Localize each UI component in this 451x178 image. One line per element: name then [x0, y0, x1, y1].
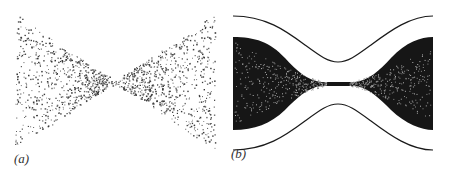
envelope-plot-b	[225, 0, 451, 178]
panel-a: (a)	[0, 0, 225, 178]
panel-b-label: (b)	[231, 146, 246, 162]
panel-b: (b)	[225, 0, 451, 178]
panel-a-label: (a)	[14, 151, 29, 167]
scatter-plot-a	[0, 0, 225, 178]
bowtie-fill	[233, 37, 433, 130]
